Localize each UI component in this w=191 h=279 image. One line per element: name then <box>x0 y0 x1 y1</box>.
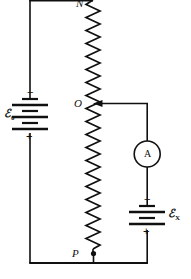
label-node-n: N <box>76 0 83 9</box>
emf-driver-symbol: ℰ <box>4 107 11 119</box>
emf-driver-subscript: 0 <box>11 114 15 122</box>
driver-battery-plates <box>12 99 48 129</box>
label-node-p: P <box>72 248 79 259</box>
emf-unknown-subscript: X <box>175 214 180 222</box>
resistor-zigzag <box>86 0 100 249</box>
figure-canvas: N O P ℰ0 ℰX − + − + A <box>0 0 191 279</box>
unknown-battery-plates <box>129 206 165 224</box>
label-node-o: O <box>74 98 82 109</box>
slider-contact-group[interactable] <box>93 100 148 107</box>
ammeter-label: A <box>144 149 151 159</box>
slide-wire-resistor-body <box>86 0 100 254</box>
label-emf-unknown: ℰX <box>168 208 180 222</box>
emf-unknown-symbol: ℰ <box>168 207 175 219</box>
left-branch-wires <box>29 0 93 263</box>
label-emf-driver: ℰ0 <box>4 108 15 122</box>
unknown-battery-negative-sign: − <box>144 194 150 205</box>
driver-battery-positive-sign: + <box>26 131 32 142</box>
driver-battery-negative-sign: − <box>27 87 33 98</box>
unknown-battery-positive-sign: + <box>143 226 149 237</box>
